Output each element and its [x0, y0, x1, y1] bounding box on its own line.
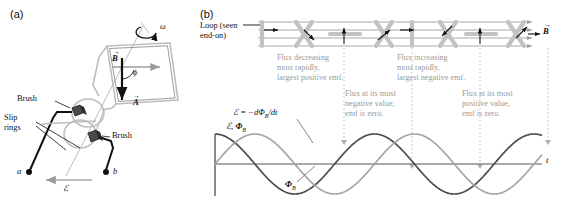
figure-container: (a)	[0, 0, 563, 204]
annotation-line: Flux at its most	[462, 89, 513, 99]
y-axis-label: ℰ, ΦB	[226, 121, 246, 133]
annotation-line: largest positive emf.	[277, 73, 343, 83]
emf-equation-label: ℰ = −dΦB/dt	[233, 107, 277, 119]
annotation-line: Flux increasing	[397, 53, 465, 63]
loop-orientations	[262, 22, 524, 46]
annotation-line: emf is zero.	[462, 109, 513, 119]
annotation-line: most rapidly,	[277, 63, 343, 73]
annotation-line: emf is zero.	[345, 109, 396, 119]
annotation-line: Flux at its most	[345, 89, 396, 99]
emf-equation-leader	[297, 119, 313, 143]
flux-curve-leader	[297, 166, 315, 182]
annotation-line: most rapidly,	[397, 63, 465, 73]
annotation-line: negative value,	[345, 99, 396, 109]
curve-flux-label: ΦB	[285, 179, 296, 191]
annotation-flux-most-negative: Flux at its most negative value, emf is …	[345, 89, 396, 120]
annotation-flux-most-positive: Flux at its most positive value, emf is …	[462, 89, 513, 120]
annotation-line: positive value,	[462, 99, 513, 109]
annotation-flux-decreasing: Flux decreasing most rapidly, largest po…	[277, 53, 343, 84]
x-axis-label: t	[546, 155, 549, 165]
b-field-label-b: → B	[543, 26, 549, 36]
annotation-line: largest negative emf.	[397, 73, 465, 83]
annotation-flux-increasing: Flux increasing most rapidly, largest ne…	[397, 53, 465, 84]
annotation-line: Flux decreasing	[277, 53, 343, 63]
